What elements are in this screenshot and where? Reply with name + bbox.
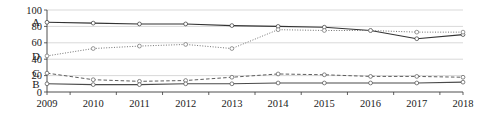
x-tick-label: 2016 (360, 98, 381, 109)
series-layer (45, 20, 465, 86)
data-point-D-2010 (91, 47, 95, 51)
data-point-D-2014 (276, 28, 280, 32)
data-point-B-2013 (230, 82, 234, 86)
data-point-D-2013 (230, 47, 234, 51)
y-tick-label: 100 (26, 5, 42, 16)
data-point-B-2017 (415, 81, 419, 85)
data-point-C-2018 (461, 75, 465, 79)
y-tick-label: 60 (32, 37, 43, 48)
x-tick-label: 2010 (83, 98, 104, 109)
data-point-C-2014 (276, 72, 280, 76)
data-point-D-2016 (369, 29, 373, 33)
data-point-D-2017 (415, 30, 419, 34)
x-tick-label: 2011 (129, 98, 150, 109)
data-point-B-2015 (322, 81, 326, 85)
series-label-A: A (32, 16, 40, 28)
data-point-C-2017 (415, 75, 419, 79)
data-point-B-2010 (91, 83, 95, 87)
series-line-A (47, 22, 463, 38)
data-point-C-2015 (322, 73, 326, 77)
data-point-A-2017 (415, 37, 419, 41)
data-point-B-2012 (184, 82, 188, 86)
data-point-A-2013 (230, 24, 234, 28)
data-point-D-2015 (322, 29, 326, 33)
data-point-D-2009 (45, 54, 49, 58)
gridlines (47, 10, 463, 76)
data-point-A-2009 (45, 20, 49, 24)
chart-canvas: 020406080100 200920102011201220132014201… (0, 0, 488, 116)
x-tick-label: 2017 (406, 98, 427, 109)
data-point-B-2018 (461, 80, 465, 84)
x-tick-label: 2018 (453, 98, 474, 109)
data-point-B-2016 (369, 81, 373, 85)
data-point-B-2009 (45, 82, 49, 86)
series-line-C (47, 73, 463, 81)
x-tick-label: 2014 (268, 98, 290, 109)
series-C (45, 71, 465, 83)
series-label-B: B (32, 78, 39, 90)
data-point-C-2009 (45, 71, 49, 75)
data-point-D-2012 (184, 43, 188, 47)
data-point-C-2016 (369, 75, 373, 79)
x-tick-label: 2012 (175, 98, 196, 109)
series-label-D: D (32, 50, 40, 62)
data-point-B-2011 (138, 83, 142, 87)
x-tick-label: 2015 (314, 98, 335, 109)
axis-lines (47, 10, 463, 92)
x-tick-label: 2009 (37, 98, 58, 109)
data-point-A-2012 (184, 22, 188, 26)
series-A (45, 20, 465, 40)
data-point-D-2018 (461, 30, 465, 34)
series-inline-labels: ADCB (32, 16, 40, 90)
data-point-D-2011 (138, 44, 142, 48)
x-axis-ticks: 2009201020112012201320142015201620172018 (37, 92, 474, 109)
data-point-C-2010 (91, 78, 95, 82)
data-point-A-2010 (91, 21, 95, 25)
line-chart: 020406080100 200920102011201220132014201… (0, 0, 488, 116)
x-tick-label: 2013 (221, 98, 242, 109)
data-point-B-2014 (276, 81, 280, 85)
series-B (45, 80, 465, 86)
data-point-A-2011 (138, 22, 142, 26)
series-line-B (47, 82, 463, 84)
data-point-C-2013 (230, 75, 234, 79)
